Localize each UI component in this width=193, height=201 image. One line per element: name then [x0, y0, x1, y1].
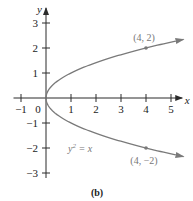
data-point-label: (4, −2)	[130, 155, 157, 167]
x-tick-label: 0	[35, 103, 41, 115]
x-axis-label: x	[184, 94, 190, 106]
parabola-chart: x y −1012345 −3−2−1123 (4, 2)(4, −2) y2 …	[0, 0, 193, 201]
data-point	[144, 146, 148, 150]
x-tick-label: 5	[168, 103, 174, 115]
x-tick-label: 3	[118, 103, 124, 115]
x-tick-label: 1	[68, 103, 74, 115]
y-tick-label: −3	[26, 167, 38, 179]
curve-upper-branch	[46, 39, 184, 98]
equation-label: y2 = x	[67, 142, 93, 154]
y-tick-label: 2	[33, 42, 39, 54]
y-axis-label: y	[36, 3, 42, 15]
x-tick-label: 2	[93, 103, 99, 115]
data-point	[144, 46, 148, 50]
curve-lower-branch	[46, 98, 184, 157]
data-point-label: (4, 2)	[133, 32, 155, 44]
points: (4, 2)(4, −2)	[130, 32, 157, 167]
figure-caption: (b)	[91, 187, 103, 199]
x-tick-label: 4	[143, 103, 149, 115]
y-tick-label: −2	[26, 142, 38, 154]
x-tick-label: −1	[15, 103, 27, 115]
y-tick-label: 3	[33, 17, 39, 29]
x-ticks: −1012345	[15, 94, 174, 115]
y-tick-label: 1	[33, 67, 39, 79]
y-tick-label: −1	[26, 117, 38, 129]
